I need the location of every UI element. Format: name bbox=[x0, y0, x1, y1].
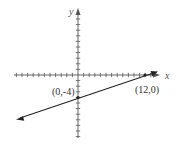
point-y-intercept-label: (0,-4) bbox=[52, 86, 75, 98]
y-axis-label: y bbox=[68, 6, 74, 17]
point-x-intercept bbox=[143, 73, 146, 76]
line-arrow-left-icon bbox=[16, 116, 24, 121]
x-axis-label: x bbox=[164, 70, 170, 81]
y-axis-arrow-icon bbox=[76, 8, 81, 15]
plotted-line bbox=[20, 74, 152, 119]
coordinate-plane: x y (0,-4) (12,0) bbox=[0, 0, 177, 149]
point-x-intercept-label: (12,0) bbox=[135, 84, 159, 96]
point-y-intercept bbox=[76, 96, 79, 99]
